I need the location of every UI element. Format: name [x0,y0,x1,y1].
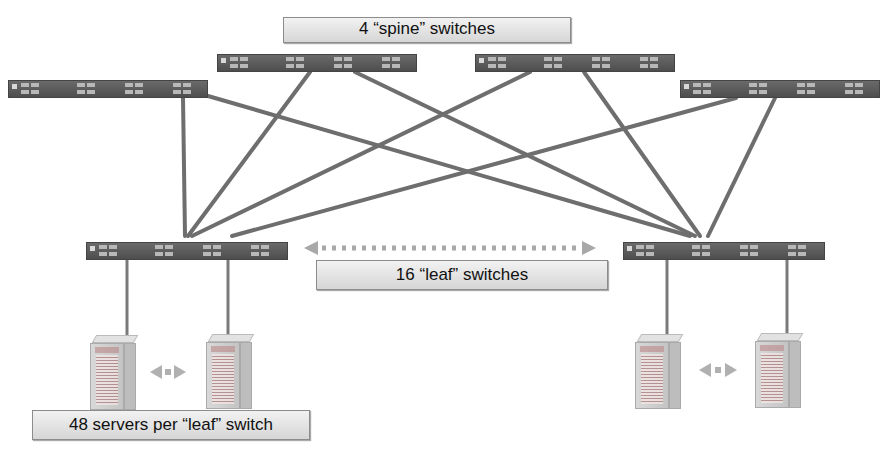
leaf-label-text: 16 “leaf” switches [396,265,528,284]
spine-switch-2[interactable] [217,54,417,72]
link-spine4-leaf1 [232,98,736,236]
server-icon[interactable] [635,334,681,409]
status-led-icon [684,84,689,89]
status-led-icon [221,58,226,63]
server-icon[interactable] [755,333,801,408]
leaf-switch-1[interactable] [86,242,288,260]
link-spine3-leaf1 [192,72,530,236]
leaf-switch-2[interactable] [623,242,825,260]
link-spine4-leaf2 [708,98,775,236]
spine-switch-4[interactable] [680,80,880,98]
leaf-label: 16 “leaf” switches [316,260,608,290]
status-led-icon [90,246,95,251]
leaf-spine-diagram: 4 “spine” switches [0,0,896,461]
status-led-icon [12,84,17,89]
spine-switch-1[interactable] [8,80,208,98]
status-led-icon [627,246,632,251]
spine-label: 4 “spine” switches [283,17,571,43]
spine-switch-3[interactable] [475,54,675,72]
spine-label-text: 4 “spine” switches [359,19,495,38]
servers-label-text: 48 servers per “leaf” switch [69,415,273,434]
servers-label: 48 servers per “leaf” switch [32,410,310,440]
server-icon[interactable] [90,335,136,410]
server-icon[interactable] [206,334,252,409]
link-spine1-leaf1 [183,98,185,236]
status-led-icon [479,58,484,63]
